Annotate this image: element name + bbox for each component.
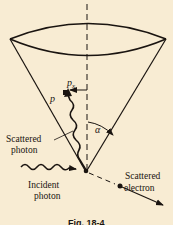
compton-scattering-diagram: px p Scattered photon α Incident photon … (0, 0, 173, 225)
scattering-point (84, 169, 89, 174)
px-label: px (66, 77, 76, 90)
scattered-photon-label-1: Scattered (6, 134, 42, 144)
scattered-photon-label-2: photon (11, 145, 38, 155)
scattered-electron-label-2: electron (124, 183, 155, 193)
electron-dot (118, 184, 123, 189)
electron-dashed-path (89, 173, 115, 184)
incident-photon-wave (21, 165, 76, 170)
alpha-label: α (95, 124, 101, 135)
p-label: p (49, 93, 55, 104)
scattered-photon-wave (63, 88, 86, 170)
scattered-electron-label-1: Scattered (125, 171, 161, 181)
figure-caption: Fig. 18-4 (68, 218, 105, 225)
incident-photon-label-1: Incident (28, 180, 59, 190)
cone-rim (10, 24, 166, 56)
incident-photon-label-2: photon (34, 191, 61, 201)
